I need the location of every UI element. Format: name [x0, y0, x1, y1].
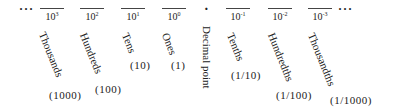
- power-tens: 101: [118, 11, 148, 22]
- label-thousandths: Thousandths: [306, 31, 338, 88]
- value-thousandths: (1/1000): [330, 94, 372, 106]
- digit-slot-ones: [162, 8, 186, 9]
- power-tenths: 10-1: [223, 11, 253, 22]
- decimal-point-dot: ·: [204, 2, 209, 18]
- label-ones: Ones: [160, 31, 180, 56]
- label-decimal-point: Decimal point: [201, 26, 213, 89]
- power-thousands: 103: [37, 11, 67, 22]
- digit-slot-hundredths: [268, 8, 292, 9]
- label-hundredths: Hundredths: [266, 31, 296, 83]
- label-tenths: Tenths: [225, 31, 247, 63]
- digit-slot-tens: [121, 8, 145, 9]
- power-thousandths: 10-3: [305, 11, 335, 22]
- digit-slot-thousandths: [308, 8, 332, 9]
- digit-slot-tenths: [226, 8, 250, 9]
- value-thousands: (1000): [49, 89, 81, 101]
- value-hundreds: (100): [95, 83, 121, 95]
- power-ones: 100: [159, 11, 189, 22]
- value-hundredths: (1/100): [276, 89, 312, 101]
- digit-slot-hundreds: [80, 8, 104, 9]
- value-ones: (1): [171, 59, 185, 71]
- label-hundreds: Hundreds: [78, 31, 105, 75]
- label-thousands: Thousands: [37, 30, 66, 79]
- trailing-ellipsis: ···: [338, 2, 353, 17]
- leading-ellipsis: ···: [19, 2, 34, 17]
- power-hundredths: 10-2: [265, 11, 295, 22]
- digit-slot-thousands: [40, 8, 64, 9]
- value-tens: (10): [130, 59, 150, 71]
- power-hundreds: 102: [77, 11, 107, 22]
- value-tenths: (1/10): [231, 69, 261, 81]
- label-tens: Tens: [120, 31, 139, 55]
